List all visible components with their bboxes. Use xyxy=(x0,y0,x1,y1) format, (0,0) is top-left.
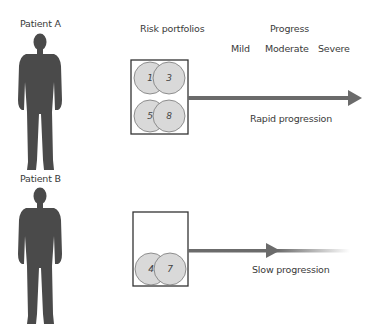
rapid-progression-arrow-icon xyxy=(188,90,362,106)
diagram-canvas: 1 3 5 8 4 7 xyxy=(0,0,374,324)
portfolio-item: 7 xyxy=(167,264,173,274)
portfolio-item: 3 xyxy=(166,73,172,83)
portfolio-items-b xyxy=(135,253,186,285)
portfolio-item: 8 xyxy=(166,111,172,121)
person-silhouette-icon xyxy=(18,34,62,171)
person-silhouette-icon xyxy=(18,188,62,324)
portfolio-item: 1 xyxy=(147,73,153,83)
slow-progression-arrow-icon xyxy=(188,243,350,258)
portfolio-item: 4 xyxy=(148,264,154,274)
portfolio-item: 5 xyxy=(147,111,153,121)
